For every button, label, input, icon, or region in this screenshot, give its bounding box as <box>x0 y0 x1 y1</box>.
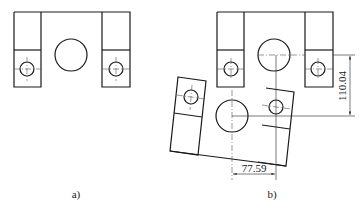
vertical-dimension: 110.04 <box>336 56 350 115</box>
figure-b-rotated-part <box>170 77 294 180</box>
figure-b-original-part <box>217 12 333 87</box>
figure-a-part <box>14 12 130 87</box>
figure-a-label: a) <box>72 188 81 201</box>
center-bore-circle <box>55 39 87 71</box>
dimension-110-04: 110.04 <box>336 71 348 101</box>
drawing-canvas: a) <box>0 0 361 212</box>
dimension-77-59: 77.59 <box>242 162 267 174</box>
figure-b-label: b) <box>267 188 277 201</box>
